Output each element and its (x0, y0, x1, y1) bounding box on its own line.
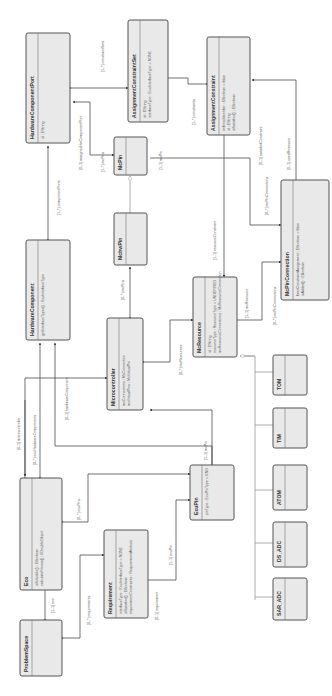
class-hardware-component-port[interactable]: HardwareComponentPort id : EString (26, 33, 70, 143)
label-ecu-pin: [1..1] ecuPin (169, 545, 173, 565)
svg-text:id : EString: id : EString (143, 100, 147, 118)
label-mcpin: [1..1] mcPin (159, 151, 163, 170)
class-requirement[interactable]: Requirement interfaceType : EcuInterface… (104, 530, 148, 618)
label-mc-resource: [1..1] mcResource (245, 289, 249, 318)
svg-text:resourceType : ResourceType =: resourceType : ResourceType = UNDEFINED (213, 280, 217, 353)
svg-text:Requirement: Requirement (107, 582, 113, 614)
svg-text:isSatisfied() : EBoolean: isSatisfied() : EBoolean (232, 94, 236, 131)
svg-text:MchwPin: MchwPin (117, 238, 123, 260)
edge-ecu-pins[interactable] (62, 474, 190, 522)
svg-text:isAdded() : EBoolean: isAdded() : EBoolean (301, 262, 305, 296)
svg-text:TOM: TOM (276, 379, 282, 390)
label-component-ports: [1..*] componentPorts (57, 180, 61, 215)
class-eco[interactable]: Eco isSolvable() : EBoolean calculateFit… (20, 478, 62, 590)
svg-text:ProblemSpace: ProblemSpace (23, 636, 29, 672)
svg-text:AssignmentConstraint: AssignmentConstraint (210, 75, 216, 131)
svg-text:mcConnections : McConnection: mcConnections : McConnection (122, 355, 126, 406)
label-mcpin-connections-1: [0..*] mcPinConnections (265, 176, 269, 215)
class-hardware-component[interactable]: HardwareComponent getInterfaceTypes() : … (26, 240, 70, 340)
svg-text:pinType : EcuPinType = GND: pinType : EcuPinType = GND (205, 468, 209, 515)
class-tim[interactable]: TIM (273, 408, 307, 448)
svg-text:isSolvable() : EBoolean: isSolvable() : EBoolean (35, 549, 39, 586)
svg-text:interfaceType : EcuInterfaceTy: interfaceType : EcuInterfaceType = NONE (119, 546, 123, 614)
svg-text:EcuPin: EcuPin (193, 497, 199, 515)
svg-text:mcVirtualPins : McVirtualPin: mcVirtualPins : McVirtualPin (127, 361, 131, 406)
edge-requirements[interactable] (62, 555, 104, 638)
class-atom[interactable]: ATOM (273, 465, 307, 510)
svg-text:McResource: McResource (196, 322, 202, 353)
class-assignment-constraint-set[interactable]: AssignmentConstraintSet id : EString int… (128, 20, 168, 122)
label-eco: [1..1] eco (51, 598, 55, 613)
label-mcpin-3: [1..1] mcPin (204, 441, 208, 460)
edge-constraints[interactable] (166, 78, 207, 84)
label-requirements: [0..*] requirements (87, 595, 91, 625)
label-satisfied-constraint: [0..1] satisfiedConstraint (259, 126, 263, 165)
svg-text:McPin: McPin (117, 155, 123, 170)
generalization-trunk (240, 356, 255, 600)
svg-text:fixedConstraintAssignment : EB: fixedConstraintAssignment : EBoolean = f… (296, 223, 300, 296)
class-tom[interactable]: TOM (273, 355, 307, 395)
svg-text:McPinConnection: McPinConnection (284, 252, 290, 296)
label-hardware-component: [0..1] hardwareComponent (65, 377, 69, 420)
label-microcontroller: [0..1] microcontroller (17, 417, 21, 450)
label-mcpins-1: [1..*] mcPins (101, 152, 105, 172)
edge-mcpin-connections[interactable] (150, 158, 281, 225)
class-ecupin[interactable]: EcuPin pinType : EcuPinType = GND (190, 465, 234, 520)
svg-text:id : EString: id : EString (41, 121, 45, 139)
label-mc-resources: [0..*] mcResources (179, 344, 183, 375)
svg-text:ATOM: ATOM (276, 490, 282, 505)
label-mcpin-connections-2: [0..*] mcPinConnections (273, 286, 277, 325)
svg-text:interfaceType : EcuInterfaceTy: interfaceType : EcuInterfaceType = NONE (148, 50, 152, 118)
class-assignment-constraint[interactable]: AssignmentConstraint enforceIdentifier :… (207, 37, 250, 135)
label-used-resource: [0..1] usedResource (287, 138, 291, 170)
svg-text:mcResourceConnections : McReso: mcResourceConnections : McResourceConnec… (218, 272, 222, 354)
label-ecu-hardware-components: [0..*] ecuHardwareComponents (33, 415, 37, 465)
svg-text:id : EString: id : EString (227, 113, 231, 131)
edge-mc-resources[interactable] (143, 320, 193, 362)
svg-text:SAR_ADC: SAR_ADC (276, 591, 282, 616)
edge-ecu-pin[interactable] (147, 500, 190, 580)
edge-assigned-hw-port[interactable] (90, 102, 114, 155)
class-name: HardwareComponentPort (29, 76, 35, 139)
svg-text:enforceIdentifier : EBoolean =: enforceIdentifier : EBoolean = false (222, 75, 226, 131)
class-mcpin[interactable]: McPin (114, 137, 147, 175)
svg-text:Microcontroller: Microcontroller (110, 368, 116, 406)
label-requirement: [0..1] requirement (155, 592, 159, 620)
class-problem-space[interactable]: ProblemSpace (20, 620, 62, 676)
label-mcpins-2: [0..*] mcPins (121, 280, 125, 300)
svg-text:isSatisfied() : EBoolean: isSatisfied() : EBoolean (124, 577, 128, 614)
class-mchwpin[interactable]: MchwPin (114, 213, 147, 265)
label-constraints: [1..*] constraints (192, 99, 196, 125)
svg-text:HardwareComponent: HardwareComponent (29, 283, 35, 336)
svg-text:AssignmentConstraintSet: AssignmentConstraintSet (131, 54, 137, 118)
svg-text:Eco: Eco (23, 576, 29, 586)
svg-text:DS_ADC: DS_ADC (276, 540, 282, 562)
class-sar-adc[interactable]: SAR_ADC (273, 578, 307, 620)
class-mcresource[interactable]: McResource id : EString resourceType : R… (193, 272, 237, 358)
label-assigned-hw-port: [0..1] assignedHwComponentPort (79, 116, 83, 170)
svg-text:getInterfaceTypes() : EcuInter: getInterfaceTypes() : EcuInterfaceType (41, 274, 45, 336)
label-constraint-sets: [1..*] constraintSets (101, 41, 105, 72)
uml-diagram-canvas: [1..*] constraintSets [1..*] constraints… (0, 0, 332, 696)
label-ecu-pins: [0..*] ecuPins (77, 499, 81, 520)
class-mcpin-connection[interactable]: McPinConnection fixedConstraintAssignmen… (281, 180, 329, 300)
class-microcontroller[interactable]: Microcontroller mcConnections : McConnec… (107, 318, 143, 410)
svg-text:requirementConstraints : Requi: requirementConstraints : RequirementAttr… (129, 540, 133, 614)
class-ds-adc[interactable]: DS_ADC (273, 522, 307, 567)
label-resource-constraint: [1..1] resourceConstraint (213, 221, 217, 260)
svg-text:TIM: TIM (276, 434, 282, 443)
svg-text:id : EString: id : EString (208, 335, 212, 353)
svg-text:calculateFitness() : EDoubleOb: calculateFitness() : EDoubleObject (40, 531, 44, 586)
